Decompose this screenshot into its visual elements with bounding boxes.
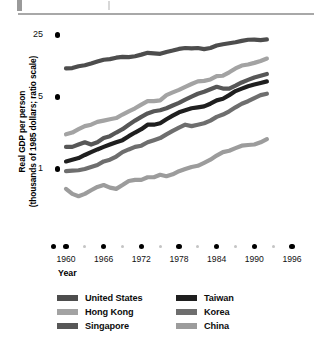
legend-swatch-hong-kong (57, 309, 78, 316)
series-line-united-states (66, 39, 267, 68)
x-tick-dot-1978 (176, 244, 181, 249)
legend-label-taiwan: Taiwan (204, 293, 234, 303)
legend-label-singapore: Singapore (85, 321, 129, 331)
legend-item-taiwan[interactable]: Taiwan (176, 291, 234, 305)
x-tick-label-1972: 1972 (124, 254, 158, 264)
page-header-rule (0, 0, 314, 16)
y-axis-title: Real GDP per person (thousands of 1985 d… (17, 39, 38, 225)
plot-lines (60, 16, 310, 236)
x-tick-label-1984: 1984 (200, 254, 234, 264)
x-minor-dot-1987 (234, 245, 237, 248)
legend-column-right: Taiwan Korea China (176, 291, 234, 333)
legend-item-singapore[interactable]: Singapore (57, 319, 142, 333)
legend-swatch-korea (176, 309, 197, 316)
y-tick-label-1: 1 (38, 163, 43, 173)
x-tick-label-1978: 1978 (162, 254, 196, 264)
x-tick-dot-1960 (63, 244, 68, 249)
legend-item-united-states[interactable]: United States (57, 291, 142, 305)
series-line-hong-kong (66, 59, 267, 135)
header-mark (17, 0, 22, 11)
legend-item-hong-kong[interactable]: Hong Kong (57, 305, 142, 319)
x-tick-dot-1996 (289, 244, 294, 249)
x-tick-dot-1966 (101, 244, 106, 249)
legend-label-korea: Korea (204, 307, 230, 317)
x-tick-label-1990: 1990 (237, 254, 271, 264)
x-minor-dot-1993 (272, 245, 275, 248)
chart-legend: United States Hong Kong Singapore Taiwan… (0, 291, 314, 341)
legend-swatch-united-states (57, 295, 78, 302)
series-line-korea (66, 94, 267, 171)
legend-column-left: United States Hong Kong Singapore (57, 291, 142, 333)
x-tick-dot-1972 (139, 244, 144, 249)
legend-item-korea[interactable]: Korea (176, 305, 234, 319)
x-tick-label-1960: 1960 (49, 254, 83, 264)
y-tick-label-5: 5 (38, 91, 43, 101)
legend-label-china: China (204, 321, 229, 331)
header-tick (108, 1, 110, 10)
legend-label-united-states: United States (85, 293, 142, 303)
x-minor-dot-1963 (83, 245, 86, 248)
legend-item-china[interactable]: China (176, 319, 234, 333)
chart-area: Real GDP per person (thousands of 1985 d… (0, 16, 314, 276)
x-minor-dot-1969 (121, 245, 124, 248)
horizontal-divider (18, 13, 314, 15)
x-axis-title: Year (58, 268, 77, 278)
series-svg (60, 16, 310, 236)
x-tick-label-1996: 1996 (275, 254, 309, 264)
x-tick-dot-origin (51, 244, 56, 249)
x-minor-dot-1975 (159, 245, 162, 248)
x-tick-label-1966: 1966 (87, 254, 121, 264)
x-axis: 1960196619721978198419901996 (0, 244, 314, 278)
legend-swatch-china (176, 323, 197, 330)
x-tick-dot-1990 (252, 244, 257, 249)
legend-label-hong-kong: Hong Kong (85, 307, 134, 317)
legend-swatch-taiwan (176, 295, 197, 302)
y-tick-label-25: 25 (33, 29, 43, 39)
x-minor-dot-1981 (196, 245, 199, 248)
legend-swatch-singapore (57, 323, 78, 330)
x-tick-dot-1984 (214, 244, 219, 249)
